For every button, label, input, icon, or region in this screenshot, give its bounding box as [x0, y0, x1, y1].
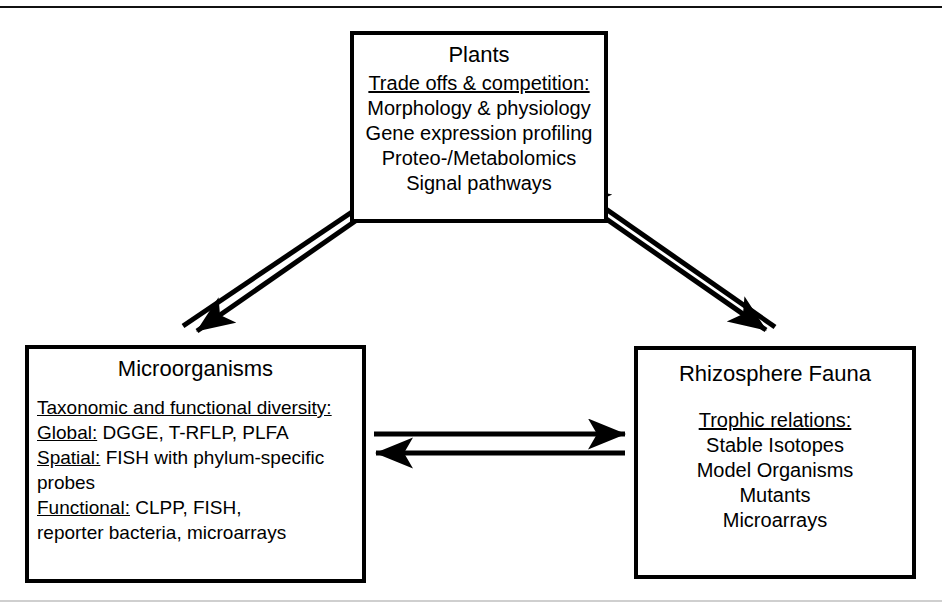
node-rhizosphere-fauna-item-0: Stable Isotopes [638, 433, 912, 458]
node-plants-body: Trade offs & competition: Morphology & p… [354, 71, 604, 196]
node-microorganisms-label-1: Spatial: [37, 447, 100, 468]
node-rhizosphere-fauna-title: Rhizosphere Fauna [638, 360, 912, 388]
node-microorganisms[interactable]: Microorganisms Taxonomic and functional … [25, 345, 366, 583]
node-microorganisms-line-2: probes [37, 470, 354, 495]
node-microorganisms-label-0: Global: [37, 422, 97, 443]
node-microorganisms-text-2: probes [37, 472, 95, 493]
node-rhizosphere-fauna-item-2: Mutants [638, 483, 912, 508]
node-microorganisms-text-3: CLPP, FISH, [130, 497, 242, 518]
node-plants-item-0: Morphology & physiology [354, 96, 604, 121]
node-rhizosphere-fauna-heading: Trophic relations: [638, 408, 912, 433]
node-plants-title: Plants [354, 41, 604, 69]
node-microorganisms-text-4: reporter bacteria, microarrays [37, 522, 286, 543]
node-microorganisms-text-0: DGGE, T-RFLP, PLFA [97, 422, 288, 443]
node-microorganisms-line-1: Spatial: FISH with phylum-specific [37, 445, 354, 470]
node-plants-item-1: Gene expression profiling [354, 121, 604, 146]
node-microorganisms-line-3: Functional: CLPP, FISH, [37, 495, 354, 520]
node-microorganisms-line-4: reporter bacteria, microarrays [37, 520, 354, 545]
node-rhizosphere-fauna-item-1: Model Organisms [638, 458, 912, 483]
node-rhizosphere-fauna-body: Trophic relations: Stable Isotopes Model… [638, 408, 912, 533]
node-microorganisms-body: Taxonomic and functional diversity: Glob… [37, 395, 354, 545]
node-rhizosphere-fauna[interactable]: Rhizosphere Fauna Trophic relations: Sta… [634, 346, 916, 579]
node-microorganisms-line-0: Global: DGGE, T-RFLP, PLFA [37, 420, 354, 445]
node-plants[interactable]: Plants Trade offs & competition: Morphol… [350, 31, 608, 223]
diagram-canvas: Plants Trade offs & competition: Morphol… [0, 0, 942, 603]
node-plants-item-2: Proteo-/Metabolomics [354, 146, 604, 171]
node-plants-item-3: Signal pathways [354, 171, 604, 196]
node-microorganisms-heading: Taxonomic and functional diversity: [37, 395, 354, 420]
node-microorganisms-text-1: FISH with phylum-specific [100, 447, 324, 468]
node-microorganisms-title: Microorganisms [37, 355, 354, 383]
node-microorganisms-label-3: Functional: [37, 497, 130, 518]
node-rhizosphere-fauna-item-3: Microarrays [638, 508, 912, 533]
node-plants-heading: Trade offs & competition: [354, 71, 604, 96]
